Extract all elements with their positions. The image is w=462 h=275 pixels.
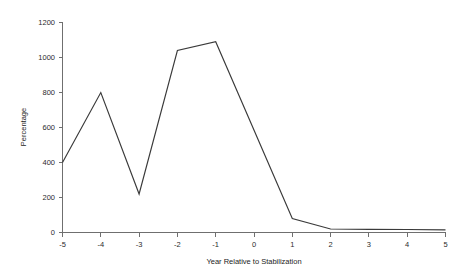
y-tick-label: 600 [42,123,55,132]
y-tick-label: 200 [42,193,55,202]
x-tick-label: 5 [443,240,447,249]
x-tick-label: 3 [367,240,371,249]
x-tick-label: -3 [136,240,143,249]
y-tick-label: 0 [51,228,55,237]
chart-figure: 0 200 400 600 800 1000 1200 -5 -4 -3 [0,0,462,275]
y-tick-label: 1200 [38,18,55,27]
x-tick-label: -2 [174,240,181,249]
line-chart: 0 200 400 600 800 1000 1200 -5 -4 -3 [0,0,462,275]
x-tick-label: 1 [290,240,294,249]
x-tick-label: 2 [329,240,333,249]
x-tick-label: 4 [405,240,409,249]
x-tick-label: -5 [59,240,66,249]
x-tick-label: 0 [252,240,256,249]
y-tick-label: 1000 [38,53,55,62]
chart-background [0,0,462,275]
x-tick-label: -1 [212,240,219,249]
x-axis-title: Year Relative to Stabilization [206,257,301,266]
y-axis-title: Percentage [19,108,28,146]
y-tick-label: 400 [42,158,55,167]
x-tick-label: -4 [97,240,104,249]
y-tick-label: 800 [42,88,55,97]
